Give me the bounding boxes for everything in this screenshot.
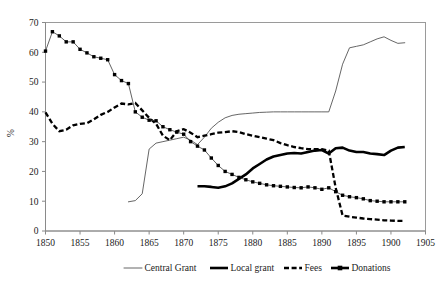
plot-frame — [46, 23, 426, 232]
y-axis-title: % — [6, 129, 16, 137]
data-point-marker — [175, 130, 178, 133]
legend-label: Donations — [352, 263, 391, 273]
y-tick-label: 0 — [34, 226, 39, 236]
x-tick-label: 1875 — [209, 238, 228, 248]
data-point-marker — [369, 199, 372, 202]
data-point-marker — [210, 156, 213, 159]
data-point-marker — [58, 34, 61, 37]
data-point-marker — [85, 51, 88, 54]
data-point-marker — [306, 185, 309, 188]
data-point-marker — [355, 196, 358, 199]
data-point-marker — [127, 82, 130, 85]
data-point-marker — [272, 184, 275, 187]
legend: Central GrantLocal grantFeesDonations — [124, 263, 391, 273]
data-point-marker — [293, 186, 296, 189]
data-point-marker — [196, 144, 199, 147]
data-point-marker — [237, 176, 240, 179]
data-point-marker — [92, 55, 95, 58]
data-point-marker — [113, 73, 116, 76]
y-tick-label: 20 — [29, 167, 39, 177]
data-point-marker — [223, 170, 226, 173]
data-point-marker — [389, 200, 392, 203]
x-tick-label: 1855 — [71, 238, 90, 248]
data-point-marker — [141, 116, 144, 119]
data-point-marker — [299, 186, 302, 189]
x-tick-label: 1850 — [36, 238, 55, 248]
data-point-marker — [327, 186, 330, 189]
y-tick-label: 30 — [29, 137, 39, 147]
data-point-marker — [71, 40, 74, 43]
legend-label: Fees — [305, 263, 323, 273]
data-point-marker — [403, 200, 406, 203]
data-point-marker — [396, 200, 399, 203]
y-tick-label: 70 — [29, 18, 39, 28]
y-tick-label: 50 — [29, 77, 39, 87]
series-path — [128, 37, 404, 202]
x-tick-label: 1895 — [347, 238, 366, 248]
x-tick-label: 1860 — [105, 238, 124, 248]
data-point-marker — [286, 185, 289, 188]
series-central-grant — [128, 37, 404, 202]
data-point-marker — [341, 194, 344, 197]
data-point-marker — [230, 173, 233, 176]
data-point-marker — [320, 188, 323, 191]
data-point-marker — [78, 48, 81, 51]
data-point-marker — [189, 140, 192, 143]
data-point-marker — [65, 40, 68, 43]
x-tick-label: 1900 — [381, 238, 400, 248]
data-point-marker — [51, 30, 54, 33]
legend-item[interactable]: Donations — [331, 263, 391, 273]
x-tick-label: 1905 — [416, 238, 435, 248]
data-point-marker — [382, 200, 385, 203]
series-layer — [44, 30, 407, 221]
data-point-marker — [106, 58, 109, 61]
data-point-marker — [147, 119, 150, 122]
legend-item[interactable]: Local grant — [210, 263, 274, 273]
y-axis-title-text: % — [6, 129, 16, 137]
data-point-marker — [168, 128, 171, 131]
legend-label: Central Grant — [145, 263, 197, 273]
data-point-marker — [203, 148, 206, 151]
series-path — [198, 147, 405, 188]
x-axis: 1850185518601865187018751880188518901895… — [36, 231, 435, 248]
series-fees — [46, 103, 405, 221]
y-axis: 010203040506070 — [29, 18, 46, 237]
data-point-marker — [251, 180, 254, 183]
data-point-marker — [348, 195, 351, 198]
data-point-marker — [265, 183, 268, 186]
y-tick-label: 40 — [29, 107, 39, 117]
x-tick-label: 1890 — [312, 238, 331, 248]
x-tick-label: 1870 — [174, 238, 193, 248]
data-point-marker — [217, 164, 220, 167]
legend-item[interactable]: Central Grant — [124, 263, 197, 273]
data-point-marker — [334, 190, 337, 193]
chart-container: 010203040506070 185018551860186518701875… — [0, 0, 448, 285]
legend-item[interactable]: Fees — [284, 263, 322, 273]
data-point-marker — [154, 119, 157, 122]
data-point-marker — [375, 200, 378, 203]
data-point-marker — [279, 185, 282, 188]
data-point-marker — [99, 57, 102, 60]
legend-label: Local grant — [231, 263, 275, 273]
data-point-marker — [313, 186, 316, 189]
y-tick-label: 60 — [29, 48, 39, 58]
data-point-marker — [44, 49, 47, 52]
data-point-marker — [161, 125, 164, 128]
line-chart: 010203040506070 185018551860186518701875… — [0, 0, 448, 285]
data-point-marker — [120, 79, 123, 82]
series-path — [46, 103, 405, 221]
x-tick-label: 1880 — [243, 238, 262, 248]
y-tick-label: 10 — [29, 197, 39, 207]
data-point-marker — [244, 178, 247, 181]
x-tick-label: 1885 — [278, 238, 297, 248]
data-point-marker — [258, 182, 261, 185]
x-tick-label: 1865 — [140, 238, 159, 248]
series-local-grant — [198, 147, 405, 188]
square-marker-swatch-icon — [338, 266, 343, 271]
data-point-marker — [362, 197, 365, 200]
data-point-marker — [182, 133, 185, 136]
data-point-marker — [134, 110, 137, 113]
